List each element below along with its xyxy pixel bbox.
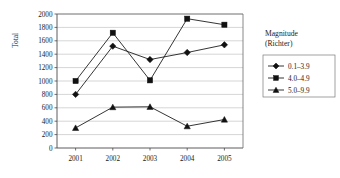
- x-tick-label: 2005: [217, 155, 232, 163]
- y-tick-label: 400: [42, 118, 53, 126]
- y-tick-label: 0: [49, 145, 53, 153]
- y-tick-label: 1200: [38, 64, 53, 72]
- y-tick-label: 600: [42, 104, 53, 112]
- x-tick-label: 2003: [143, 155, 158, 163]
- y-tick-label: 1400: [38, 51, 53, 59]
- y-axis-ticks: 0200400600800100012001400160018002000: [38, 11, 57, 153]
- legend-item-label: 4.0–4.9: [288, 75, 310, 83]
- marker-square: [274, 76, 279, 81]
- marker-square: [222, 22, 227, 27]
- y-axis-title: Total: [11, 33, 20, 48]
- earthquake-total-by-magnitude-chart: 0200400600800100012001400160018002000 20…: [0, 0, 340, 178]
- x-tick-label: 2002: [106, 155, 121, 163]
- legend-entries: 0.1–3.94.0–4.95.0–9.9: [268, 63, 310, 95]
- x-tick-label: 2004: [180, 155, 195, 163]
- marker-square: [110, 30, 115, 35]
- y-tick-label: 200: [42, 131, 53, 139]
- x-axis-ticks: 20012002200320042005: [68, 148, 232, 163]
- y-tick-label: 2000: [38, 11, 53, 19]
- y-tick-label: 1600: [38, 37, 53, 45]
- y-tick-label: 800: [42, 91, 53, 99]
- marker-square: [73, 78, 78, 83]
- legend: Magnitude (Richter) 0.1–3.94.0–4.95.0–9.…: [263, 29, 335, 97]
- legend-item-label: 5.0–9.9: [288, 87, 310, 95]
- marker-square: [185, 16, 190, 21]
- chart-canvas: 0200400600800100012001400160018002000 20…: [0, 0, 340, 178]
- y-tick-label: 1000: [38, 78, 53, 86]
- legend-item-label: 0.1–3.9: [288, 63, 310, 71]
- marker-square: [147, 78, 152, 83]
- legend-title-line2: (Richter): [265, 39, 293, 48]
- x-tick-label: 2001: [68, 155, 83, 163]
- y-tick-label: 1800: [38, 24, 53, 32]
- legend-title-line1: Magnitude: [265, 29, 299, 38]
